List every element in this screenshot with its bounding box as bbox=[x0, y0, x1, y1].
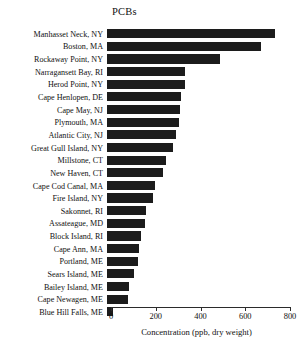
bar bbox=[107, 29, 275, 38]
bar-category-label: Atlantic City, NJ bbox=[0, 131, 107, 140]
x-axis-tick bbox=[111, 307, 112, 311]
bar-category-label: Narragansett Bay, RI bbox=[0, 68, 107, 77]
bar-category-label: Cape May, NJ bbox=[0, 106, 107, 115]
bar-track bbox=[107, 192, 305, 205]
bar-category-label: Cape Henlopen, DE bbox=[0, 93, 107, 102]
bar-row: Millstone, CT bbox=[0, 154, 305, 167]
bar bbox=[107, 295, 128, 304]
bar-category-label: Blue Hill Falls, ME bbox=[0, 308, 107, 317]
bar bbox=[107, 42, 261, 51]
bar bbox=[107, 244, 139, 253]
bar-row: Rockaway Point, NY bbox=[0, 53, 305, 66]
bar bbox=[107, 269, 134, 278]
x-axis-label: Concentration (ppb, dry weight) bbox=[0, 327, 305, 337]
bar-category-label: Block Island, RI bbox=[0, 232, 107, 241]
bar-track bbox=[107, 230, 305, 243]
bar bbox=[107, 54, 220, 63]
bar bbox=[107, 156, 166, 165]
bar-track bbox=[107, 91, 305, 104]
bar-track bbox=[107, 53, 305, 66]
bar bbox=[107, 168, 163, 177]
x-axis-tick-label: 0 bbox=[109, 312, 113, 321]
bar-row: Cape Cod Canal, MA bbox=[0, 180, 305, 193]
bar-row: Portland, ME bbox=[0, 256, 305, 269]
bar bbox=[107, 80, 185, 89]
bar bbox=[107, 143, 173, 152]
x-axis-label-text: Concentration (ppb, dry weight) bbox=[141, 327, 252, 337]
bar-row: Atlantic City, NJ bbox=[0, 129, 305, 142]
bar-category-label: Sakonnet, RI bbox=[0, 207, 107, 216]
bar-track bbox=[107, 66, 305, 79]
bar-category-label: Cape Cod Canal, MA bbox=[0, 182, 107, 191]
bar-category-label: Cape Ann, MA bbox=[0, 245, 107, 254]
x-axis-tick bbox=[245, 307, 246, 311]
bar bbox=[107, 118, 179, 127]
bar-row: Great Gull Island, NY bbox=[0, 142, 305, 155]
bar-row: Boston, MA bbox=[0, 41, 305, 54]
bar-row: Cape Henlopen, DE bbox=[0, 91, 305, 104]
bar-track bbox=[107, 28, 305, 41]
bar-row: Sakonnet, RI bbox=[0, 205, 305, 218]
bar-row: Assateague, MD bbox=[0, 218, 305, 231]
bar-track bbox=[107, 129, 305, 142]
bar-category-label: Manhasset Neck, NY bbox=[0, 30, 107, 39]
bar-track bbox=[107, 243, 305, 256]
x-axis-tick bbox=[290, 307, 291, 311]
bar-row: Bailey Island, ME bbox=[0, 281, 305, 294]
bar-row: Manhasset Neck, NY bbox=[0, 28, 305, 41]
bar-category-label: Fire Island, NY bbox=[0, 194, 107, 203]
bar-track bbox=[107, 218, 305, 231]
bar-track bbox=[107, 256, 305, 269]
bar-category-label: Assateague, MD bbox=[0, 219, 107, 228]
x-axis-tick-label: 600 bbox=[239, 312, 252, 321]
bar-category-label: Boston, MA bbox=[0, 42, 107, 51]
bar-row: Herod Point, NY bbox=[0, 79, 305, 92]
chart-title: PCBs bbox=[112, 6, 137, 17]
bar-track bbox=[107, 268, 305, 281]
bar-category-label: Rockaway Point, NY bbox=[0, 55, 107, 64]
bar-category-label: Cape Newagen, ME bbox=[0, 295, 107, 304]
bar-category-label: New Haven, CT bbox=[0, 169, 107, 178]
x-axis-tick-label: 800 bbox=[284, 312, 297, 321]
bar-row: Block Island, RI bbox=[0, 230, 305, 243]
bar-category-label: Sears Island, ME bbox=[0, 270, 107, 279]
bar-row: Narragansett Bay, RI bbox=[0, 66, 305, 79]
bar-row: Cape May, NJ bbox=[0, 104, 305, 117]
bar bbox=[107, 282, 129, 291]
bar-track bbox=[107, 104, 305, 117]
bar-track bbox=[107, 167, 305, 180]
bar-row: Plymouth, MA bbox=[0, 116, 305, 129]
bar bbox=[107, 257, 138, 266]
x-axis-tick-label: 200 bbox=[149, 312, 162, 321]
bar-row: Cape Ann, MA bbox=[0, 243, 305, 256]
bar bbox=[107, 67, 185, 76]
x-axis-tick bbox=[156, 307, 157, 311]
bar-category-label: Plymouth, MA bbox=[0, 118, 107, 127]
pcb-bar-chart: PCBs Manhasset Neck, NYBoston, MARockawa… bbox=[0, 0, 305, 362]
bar bbox=[107, 206, 146, 215]
x-axis-tick bbox=[201, 307, 202, 311]
bar-track bbox=[107, 142, 305, 155]
bar-row: Fire Island, NY bbox=[0, 192, 305, 205]
x-axis-tick-label: 400 bbox=[194, 312, 207, 321]
bar bbox=[107, 231, 141, 240]
bar-track bbox=[107, 154, 305, 167]
bar-category-label: Millstone, CT bbox=[0, 156, 107, 165]
bar-track bbox=[107, 205, 305, 218]
bar bbox=[107, 105, 180, 114]
bar-category-label: Portland, ME bbox=[0, 257, 107, 266]
bar bbox=[107, 92, 181, 101]
bar-category-label: Bailey Island, ME bbox=[0, 283, 107, 292]
bar-track bbox=[107, 116, 305, 129]
bar bbox=[107, 219, 145, 228]
bar-track bbox=[107, 79, 305, 92]
bar-row: New Haven, CT bbox=[0, 167, 305, 180]
bar-row: Cape Newagen, ME bbox=[0, 293, 305, 306]
bar-track bbox=[107, 180, 305, 193]
bar-category-label: Herod Point, NY bbox=[0, 80, 107, 89]
bar-track bbox=[107, 41, 305, 54]
bar-category-label: Great Gull Island, NY bbox=[0, 144, 107, 153]
bar bbox=[107, 193, 153, 202]
bar-track bbox=[107, 293, 305, 306]
bar-rows: Manhasset Neck, NYBoston, MARockaway Poi… bbox=[0, 28, 305, 319]
